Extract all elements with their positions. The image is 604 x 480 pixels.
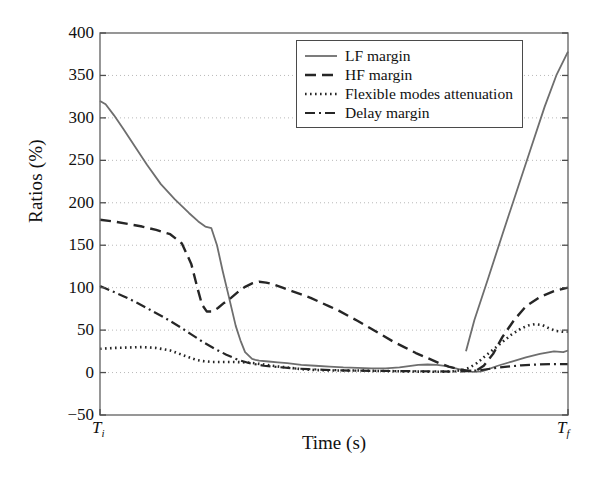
legend-item: Delay margin	[304, 103, 513, 122]
series-line	[100, 220, 568, 371]
chart-legend: LF marginHF marginFlexible modes attenua…	[296, 40, 523, 128]
series-line	[100, 286, 568, 372]
series-line	[100, 101, 568, 372]
legend-item: HF margin	[304, 65, 513, 84]
legend-item-label: LF margin	[345, 48, 411, 64]
x-axis-tick-end: Tf	[557, 418, 570, 439]
legend-item: LF margin	[304, 46, 513, 65]
legend-item-label: HF margin	[345, 67, 412, 83]
legend-line-sample-icon	[304, 106, 338, 120]
legend-item-label: Flexible modes attenuation	[345, 86, 513, 102]
legend-item-label: Delay margin	[345, 105, 430, 121]
legend-line-sample-icon	[304, 49, 338, 63]
x-axis-tick-start: Ti	[92, 418, 105, 439]
legend-item: Flexible modes attenuation	[304, 84, 513, 103]
chart-figure: Ratios (%) −50050100150200250300350400 T…	[0, 0, 604, 480]
legend-line-sample-icon	[304, 87, 338, 101]
legend-line-sample-icon	[304, 68, 338, 82]
series-line	[100, 324, 568, 372]
x-axis-label: Time (s)	[100, 432, 568, 454]
